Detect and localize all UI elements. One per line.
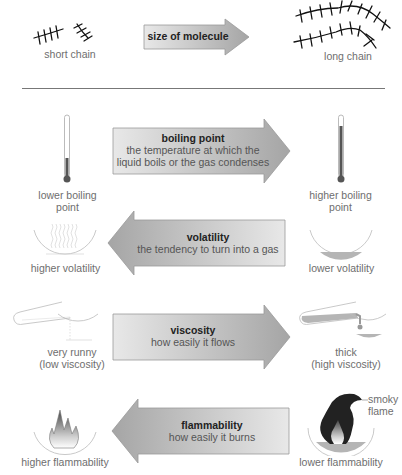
label-line: lower boiling	[38, 189, 96, 201]
size-of-molecule-arrow: size of molecule	[143, 18, 250, 56]
section-divider	[22, 88, 385, 89]
runny-pour-icon	[10, 300, 102, 346]
boiling-point-arrow: boiling point the temperature at which t…	[112, 118, 292, 184]
very-runny-label: very runny (low viscosity)	[32, 346, 112, 370]
short-chain-molecule	[30, 18, 100, 48]
long-chain-label: long chain	[318, 50, 378, 62]
short-chain-label: short chain	[40, 48, 100, 60]
lower-volatility-label: lower volatility	[304, 262, 379, 274]
thick-label: thick (high viscosity)	[306, 346, 386, 370]
label-line: point	[56, 201, 79, 213]
thermometer-high-icon	[336, 114, 346, 186]
arrow-title: size of molecule	[143, 30, 233, 42]
arrow-description: the temperature at which the	[126, 144, 259, 156]
label-line: (high viscosity)	[311, 358, 380, 370]
label-line: higher boiling	[309, 189, 371, 201]
arrow-title: boiling point	[112, 132, 274, 144]
arrow-description: how easily it flows	[151, 336, 235, 348]
label-line: thick	[335, 346, 357, 358]
smoky-flame-icon	[306, 390, 376, 456]
higher-volatility-label: higher volatility	[28, 262, 103, 274]
arrow-description: liquid boils or the gas condenses	[117, 156, 269, 168]
evaporating-dish-icon	[32, 218, 100, 264]
arrow-title: viscosity	[112, 324, 274, 336]
lower-boiling-label: lower boiling point	[30, 189, 105, 213]
label-line: flame	[368, 405, 394, 417]
arrow-description: how easily it burns	[169, 431, 255, 443]
higher-flammability-label: higher flammability	[20, 456, 110, 468]
volatility-arrow: volatility the tendency to turn into a g…	[106, 210, 286, 276]
viscosity-arrow: viscosity how easily it flows	[112, 304, 292, 370]
arrow-title: flammability	[134, 419, 290, 431]
arrow-description: the tendency to turn into a gas	[137, 243, 278, 255]
arrow-title: volatility	[130, 231, 286, 243]
thermometer-low-icon	[62, 114, 72, 186]
label-line: very runny	[47, 346, 96, 358]
label-line: smoky	[368, 393, 398, 405]
flammability-arrow: flammability how easily it burns	[110, 398, 290, 464]
liquid-dish-icon	[308, 218, 376, 264]
label-line: point	[329, 201, 352, 213]
label-line: (low viscosity)	[39, 358, 104, 370]
lower-flammability-label: lower flammability	[296, 456, 386, 468]
higher-boiling-label: higher boiling point	[303, 189, 378, 213]
thick-pour-icon	[294, 300, 386, 346]
clean-flame-icon	[32, 404, 100, 456]
short-chain-icon	[30, 18, 100, 48]
smoky-flame-annotation: smoky flame	[368, 393, 402, 417]
